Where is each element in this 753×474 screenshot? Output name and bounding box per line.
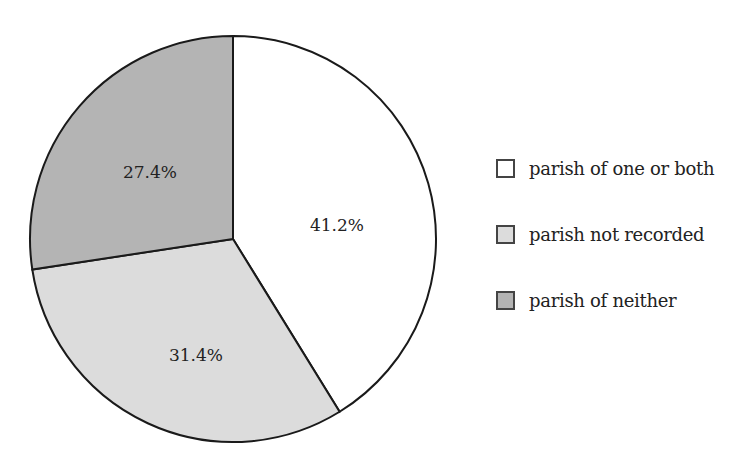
legend-item-parish-not-recorded: parish not recorded (496, 223, 714, 246)
legend-swatch-icon (496, 291, 515, 310)
legend-label: parish of one or both (529, 158, 714, 179)
pie-chart: 41.2%31.4%27.4% (0, 0, 480, 474)
pie-slices (30, 36, 436, 442)
legend-item-parish-of-neither: parish of neither (496, 289, 714, 312)
legend-item-parish-of-one-or-both: parish of one or both (496, 157, 714, 180)
legend-label: parish not recorded (529, 224, 704, 245)
legend-swatch-icon (496, 225, 515, 244)
legend-swatch-icon (496, 159, 515, 178)
pie-slice-parish-of-neither (30, 36, 233, 269)
slice-percentage-label: 41.2% (310, 215, 364, 235)
legend: parish of one or both parish not recorde… (496, 157, 714, 355)
slice-percentage-label: 27.4% (123, 162, 177, 182)
slice-percentage-label: 31.4% (169, 345, 223, 365)
legend-label: parish of neither (529, 290, 676, 311)
